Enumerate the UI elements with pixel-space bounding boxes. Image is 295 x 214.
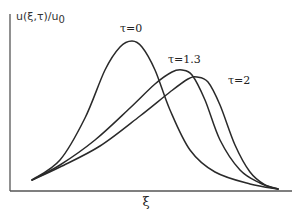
series-label-1: τ=1.3 bbox=[168, 53, 201, 66]
series-label-2: τ=2 bbox=[228, 74, 250, 87]
series-labels: τ=0τ=1.3τ=2 bbox=[120, 22, 250, 87]
y-axis-label: u(ξ,τ)/u0 bbox=[16, 10, 65, 25]
chart: u(ξ,τ)/u0 ξ τ=0τ=1.3τ=2 bbox=[0, 0, 295, 214]
curve-series-2 bbox=[32, 77, 278, 189]
curve-series-1 bbox=[32, 70, 278, 189]
series-label-0: τ=0 bbox=[120, 22, 142, 35]
x-axis-label: ξ bbox=[142, 194, 149, 209]
curve-series-0 bbox=[32, 41, 278, 189]
curves-group bbox=[32, 41, 278, 189]
